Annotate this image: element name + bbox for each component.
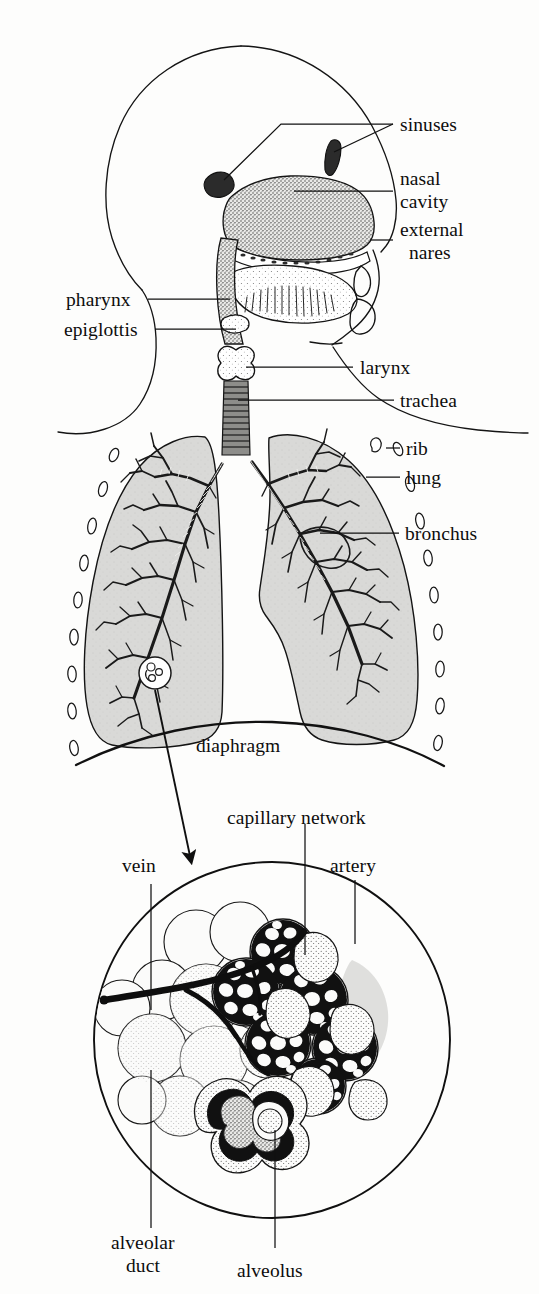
rib-labeled: [371, 438, 382, 452]
respiratory-diagram-svg: sinuses nasal cavity external nares phar…: [0, 0, 539, 1294]
label-lung: lung: [406, 467, 441, 488]
label-alveolar-duct-line2: duct: [126, 1255, 160, 1276]
label-nasal-cavity-line1: nasal: [400, 168, 441, 189]
trachea: [222, 381, 250, 455]
label-pharynx: pharynx: [66, 289, 131, 310]
label-sinuses: sinuses: [400, 114, 457, 135]
label-alveolar-duct-line1: alveolar: [111, 1232, 175, 1253]
alveoli-callout-origin: [139, 657, 171, 689]
label-alveolus: alveolus: [237, 1260, 303, 1281]
label-trachea: trachea: [400, 390, 457, 411]
label-epiglottis: epiglottis: [64, 319, 138, 340]
label-bronchus: bronchus: [405, 523, 477, 544]
nasal-cavity: [223, 176, 374, 260]
label-vein: vein: [122, 855, 156, 876]
label-artery: artery: [330, 855, 376, 876]
label-capillary-network: capillary network: [227, 807, 366, 828]
label-external-nares-line1: external: [400, 219, 464, 240]
label-nasal-cavity-line2: cavity: [400, 191, 448, 212]
respiratory-system-figure: sinuses nasal cavity external nares phar…: [0, 0, 539, 1294]
epiglottis: [221, 315, 249, 333]
label-diaphragm: diaphragm: [196, 735, 280, 756]
sinus-frontal: [204, 172, 234, 197]
label-rib: rib: [406, 438, 428, 459]
label-larynx: larynx: [360, 357, 411, 378]
label-external-nares-line2: nares: [409, 242, 451, 263]
larynx: [218, 346, 255, 380]
